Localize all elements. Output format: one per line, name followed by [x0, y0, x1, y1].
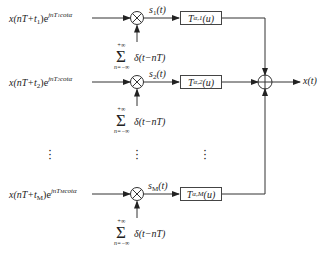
- product-label-1: s1(t): [149, 5, 166, 17]
- input-exponent: jnT2cotα: [48, 75, 72, 83]
- sigma-icon: Σ: [116, 224, 126, 241]
- product-label-M: sM(t): [148, 181, 168, 193]
- input-close: )e: [43, 189, 51, 200]
- delta-term: δ(t−nT): [134, 228, 165, 239]
- label-arg: (t): [156, 68, 165, 79]
- sum-lower: n=−∞: [114, 64, 129, 70]
- delta-term: δ(t−nT): [134, 116, 165, 127]
- delta-term: δ(t−nT): [134, 52, 165, 63]
- exp-tail: cotα: [60, 75, 72, 83]
- sum-lower: n=−∞: [114, 240, 129, 246]
- ellipsis-filters: ···: [202, 150, 208, 162]
- label-arg: (t): [158, 180, 167, 191]
- filter-sub: α,1: [193, 14, 202, 22]
- filter-block-M: Tα,M(u): [180, 187, 222, 201]
- input-close: )e: [40, 13, 48, 24]
- exp-main: jnT: [51, 187, 60, 195]
- exp-tail: cotα: [64, 187, 76, 195]
- ellipsis-inputs: ···: [47, 150, 53, 162]
- sum-lower: n=−∞: [114, 128, 129, 134]
- filter-sub: α,2: [193, 78, 202, 86]
- exp-tail: cotα: [60, 11, 72, 19]
- input-signal-2: x(nT+t2)ejnT2cotα: [9, 76, 72, 90]
- filter-arg: (u): [204, 189, 216, 200]
- impulse-train-1: +∞ Σ n=−∞ δ(t−nT): [114, 40, 174, 70]
- input-exponent: jnT1cotα: [48, 11, 72, 19]
- impulse-train-M: +∞ Σ n=−∞ δ(t−nT): [114, 216, 174, 246]
- filter-arg: (u): [202, 13, 214, 24]
- filter-arg: (u): [202, 77, 214, 88]
- label-arg: (t): [156, 4, 165, 15]
- filter-sub: α,M: [192, 190, 203, 198]
- input-base: x(nT+t: [9, 13, 37, 24]
- input-base: x(nT+t: [9, 77, 37, 88]
- input-close: )e: [40, 77, 48, 88]
- filter-block-2: Tα,2(u): [180, 75, 222, 89]
- ellipsis-multipliers: ···: [134, 150, 140, 162]
- input-exponent: jnTMcotα: [51, 187, 77, 195]
- filter-block-1: Tα,1(u): [180, 11, 222, 25]
- sigma-icon: Σ: [116, 48, 126, 65]
- input-signal-1: x(nT+t1)ejnT1cotα: [9, 12, 72, 26]
- product-label-2: s2(t): [149, 69, 166, 81]
- impulse-train-2: +∞ Σ n=−∞ δ(t−nT): [114, 104, 174, 134]
- sigma-icon: Σ: [116, 112, 126, 129]
- input-signal-M: x(nT+tM)ejnTMcotα: [9, 188, 77, 202]
- output-label: x(t): [303, 76, 317, 86]
- input-base: x(nT+t: [9, 189, 37, 200]
